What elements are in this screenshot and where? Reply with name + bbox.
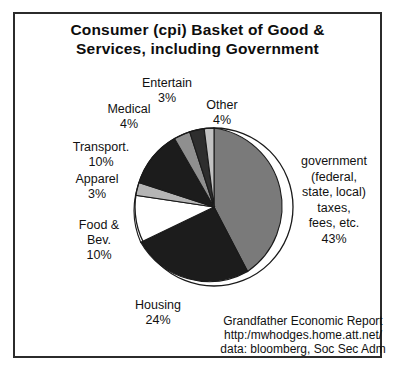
pie-label-transport-value: 10% xyxy=(55,155,147,170)
pie-label-government-line-3: state, local) xyxy=(273,185,395,201)
pie-label-government-line-5: fees, etc. xyxy=(273,216,395,232)
pie-label-apparel: Apparel 3% xyxy=(57,172,137,201)
pie-label-other-name: Other xyxy=(183,98,261,113)
source-note-title: Grandfather Economic Report xyxy=(205,314,400,328)
pie-label-transport-name: Transport. xyxy=(55,140,147,155)
pie-label-housing-value: 24% xyxy=(113,313,203,328)
source-note: Grandfather Economic Report http:/mwhodg… xyxy=(205,314,400,356)
pie-label-housing: Housing 24% xyxy=(113,298,203,327)
pie-label-medical: Medical 4% xyxy=(87,102,171,131)
pie-label-food-bev: Food & Bev. 10% xyxy=(61,218,137,263)
source-note-data: data: bloomberg, Soc Sec Adm xyxy=(205,342,400,356)
pie-label-apparel-name: Apparel xyxy=(57,172,137,187)
pie-label-other: Other 4% xyxy=(183,98,261,127)
chart-frame: Consumer (cpi) Basket of Good & Services… xyxy=(13,12,382,358)
pie-label-food-bev-value: 10% xyxy=(61,248,137,263)
pie-label-other-value: 4% xyxy=(183,113,261,128)
pie-label-government-line-2: (federal, xyxy=(273,170,395,186)
pie-label-apparel-value: 3% xyxy=(57,187,137,202)
pie-label-medical-name: Medical xyxy=(87,102,171,117)
pie-chart-area: Entertain 3% Other 4% Medical 4% Transpo… xyxy=(15,14,380,356)
pie-label-government-value: 43% xyxy=(273,232,395,248)
pie-label-government-line-4: taxes, xyxy=(273,201,395,217)
pie-label-food-bev-name-1: Food & xyxy=(61,218,137,233)
source-note-url: http:/mwhodges.home.att.net/ xyxy=(205,328,400,342)
pie-label-entertain-name: Entertain xyxy=(121,76,213,91)
pie-label-housing-name: Housing xyxy=(113,298,203,313)
pie-label-medical-value: 4% xyxy=(87,117,171,132)
pie-label-government: government (federal, state, local) taxes… xyxy=(273,154,395,247)
pie-label-government-line-1: government xyxy=(273,154,395,170)
pie-label-food-bev-name-2: Bev. xyxy=(61,233,137,248)
pie-slices xyxy=(134,128,282,282)
pie-label-transport: Transport. 10% xyxy=(55,140,147,169)
